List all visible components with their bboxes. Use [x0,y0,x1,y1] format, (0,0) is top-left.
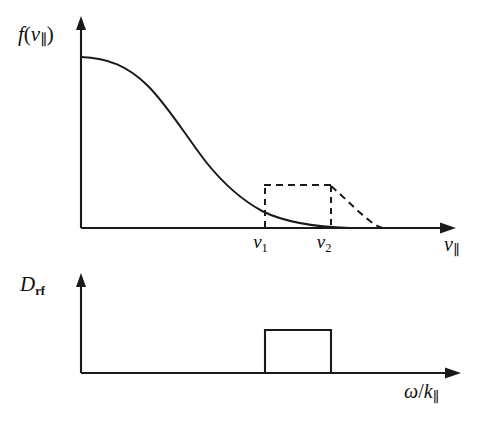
v1-base-glyph: v [253,231,261,252]
top-panel-x-axis-label: v∥ [444,234,459,257]
k-glyph: k [424,380,433,402]
bottom-panel-x-axis-label: ω/k∥ [404,381,439,404]
v2-base-glyph: v [317,231,325,252]
top-panel-y-axis-label: f(v∥) [18,24,54,48]
tick-label-v1: v1 [253,232,268,254]
v2-subscript: 2 [325,241,331,255]
maxwellian-solid-curve [81,57,430,228]
bottom-panel-x-axis-arrowhead [445,368,461,379]
bottom-panel-y-axis-arrowhead [76,273,86,287]
figure-root: f(v∥) v∥ v1 v2 Drf ω/k∥ [0,0,492,422]
fv-variable-glyph: v [31,22,40,46]
omega-glyph: ω [404,380,418,402]
fv-open-paren: ( [24,22,31,46]
top-panel-x-axis-arrowhead [440,223,456,234]
bottom-panel-group [76,273,461,378]
vpar-variable-glyph: v [444,233,453,255]
drf-base-glyph: D [20,272,35,296]
top-panel-y-axis-arrowhead [76,16,86,30]
v1-subscript: 1 [262,241,268,255]
drf-rf-subscript: rf [35,284,45,298]
top-panel-group [76,16,456,233]
plateau-dashed-tail [331,186,383,228]
rf-diffusion-box [265,330,331,373]
tick-label-v2: v2 [317,232,332,254]
fv-close-paren: ) [47,22,54,46]
bottom-panel-y-axis-label: Drf [20,274,45,297]
vpar-parallel-subscript: ∥ [453,242,459,258]
fv-parallel-subscript: ∥ [40,32,47,48]
k-parallel-subscript: ∥ [433,389,439,405]
figure-canvas [0,0,492,422]
